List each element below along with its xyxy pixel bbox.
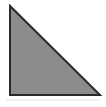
- triangle-figure: [0, 0, 106, 107]
- figure-canvas: [0, 0, 106, 107]
